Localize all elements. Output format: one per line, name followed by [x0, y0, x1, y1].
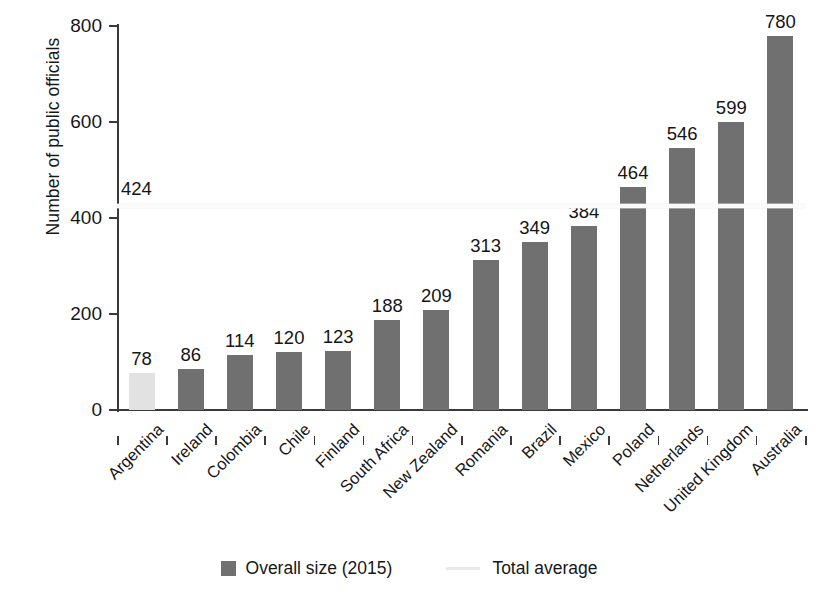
x-axis-label-united-kingdom: United Kingdom: [660, 420, 756, 516]
bar-chart-figure: Number of public officials 0200400600800…: [0, 0, 818, 594]
bar-value-label: 123: [323, 326, 354, 348]
chart-legend: Overall size (2015) Total average: [0, 558, 818, 579]
bar-new-zealand: 209: [423, 310, 449, 410]
y-axis-title: Number of public officials: [43, 0, 64, 302]
y-axis-tick-mark: [109, 25, 117, 27]
total-average-line: [117, 204, 805, 208]
bar-value-label: 313: [470, 235, 501, 257]
y-axis-tick-mark: [109, 121, 117, 123]
bar-colombia: 114: [227, 355, 253, 410]
y-axis-tick-label: 600: [70, 111, 102, 133]
legend-item-total-average: Total average: [446, 558, 597, 579]
bar-value-label: 599: [716, 97, 747, 119]
y-axis-tick-mark: [109, 409, 117, 411]
bar-australia: 780: [767, 36, 793, 410]
legend-label-total-average: Total average: [492, 558, 597, 579]
y-axis-tick-label: 0: [91, 399, 102, 421]
y-axis-tick-label: 800: [70, 15, 102, 37]
x-axis-label-argentina: Argentina: [104, 420, 167, 483]
x-axis-label-romania: Romania: [451, 420, 511, 480]
bar-value-label: 120: [274, 327, 305, 349]
bar-south-africa: 188: [374, 320, 400, 410]
bar-swatch-icon: [221, 561, 236, 576]
bar-value-label: 546: [667, 123, 698, 145]
x-axis-label-mexico: Mexico: [559, 420, 609, 470]
bar-value-label: 464: [618, 162, 649, 184]
legend-item-overall-size: Overall size (2015): [221, 558, 393, 579]
y-axis-tick: 800: [70, 15, 117, 37]
y-axis-tick-label: 400: [70, 207, 102, 229]
bar-value-label: 349: [519, 217, 550, 239]
bar-argentina: 78: [129, 373, 155, 410]
legend-label-overall-size: Overall size (2015): [246, 558, 393, 579]
bar-poland: 464: [620, 187, 646, 410]
bar-value-label: 780: [765, 11, 796, 33]
total-average-value-label: 424: [121, 178, 152, 200]
bar-united-kingdom: 599: [718, 122, 744, 410]
bar-value-label: 86: [180, 344, 201, 366]
x-axis-label-chile: Chile: [274, 420, 314, 460]
y-axis-tick-label: 200: [70, 303, 102, 325]
y-axis-tick: 0: [91, 399, 117, 421]
bar-value-label: 209: [421, 285, 452, 307]
x-axis-category-labels: ArgentinaIrelandColombiaChileFinlandSout…: [117, 420, 808, 540]
bar-netherlands: 546: [669, 148, 695, 410]
x-axis-label-brazil: Brazil: [518, 420, 561, 463]
bar-value-label: 114: [225, 330, 255, 352]
x-axis-label-australia: Australia: [747, 420, 806, 479]
bar-chile: 120: [276, 352, 302, 410]
bar-brazil: 349: [522, 242, 548, 410]
bar-mexico: 384: [571, 226, 597, 410]
y-axis-tick: 400: [70, 207, 117, 229]
bar-romania: 313: [473, 260, 499, 410]
line-swatch-icon: [446, 567, 480, 570]
y-axis-tick: 600: [70, 111, 117, 133]
y-axis-tick: 200: [70, 303, 117, 325]
bar-value-label: 78: [131, 348, 152, 370]
y-axis-tick-mark: [109, 217, 117, 219]
bar-ireland: 86: [178, 369, 204, 410]
bar-value-label: 188: [372, 295, 403, 317]
bar-finland: 123: [325, 351, 351, 410]
y-axis-tick-mark: [109, 313, 117, 315]
plot-area: 0200400600800 78861141201231882093133493…: [117, 26, 805, 410]
